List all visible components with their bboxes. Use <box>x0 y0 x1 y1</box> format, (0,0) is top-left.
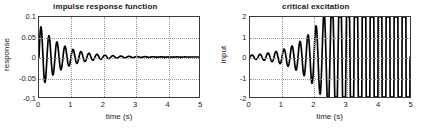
x-axis-tick-label: 1 <box>68 100 72 109</box>
chart-title-impulse-response: impulse response function <box>0 2 211 11</box>
x-axis-tick-label: 2 <box>101 100 105 109</box>
x-axis-tick-label: 5 <box>408 100 412 109</box>
x-axis-tick-label: 4 <box>166 100 170 109</box>
x-axis-tick-label: 1 <box>279 100 283 109</box>
x-axis-label-time-right: time (s) <box>249 112 411 121</box>
y-axis-tick-label: -0.05 <box>2 73 36 82</box>
x-axis-label-time-left: time (s) <box>38 112 200 121</box>
x-axis-tick-label: 0 <box>36 100 40 109</box>
y-axis-tick-label: -2 <box>213 94 247 103</box>
x-axis-tick-label: 3 <box>344 100 348 109</box>
x-axis-tick-label: 5 <box>198 100 202 109</box>
critical-excitation-trace <box>250 17 410 97</box>
y-axis-tick-label: -0.1 <box>2 94 36 103</box>
x-axis-tick-label: 2 <box>311 100 315 109</box>
x-axis-tick-label: 4 <box>376 100 380 109</box>
y-axis-tick-label: 0 <box>2 53 36 62</box>
y-axis-tick-label: 0 <box>213 53 247 62</box>
y-axis-tick-label: 0.05 <box>2 32 36 41</box>
impulse-response-trace <box>39 17 199 97</box>
x-axis-ticks-left: 012345 <box>38 100 200 112</box>
figure-container: impulse response function response 0.10.… <box>0 0 421 133</box>
x-axis-tick-label: 3 <box>133 100 137 109</box>
chart-panel-critical-excitation: critical excitation input 210-1-2 012345… <box>211 0 421 133</box>
y-axis-tick-label: 0.1 <box>2 12 36 21</box>
plot-area-critical-excitation <box>249 16 411 98</box>
y-axis-tick-label: 1 <box>213 32 247 41</box>
plot-area-impulse-response <box>38 16 200 98</box>
chart-title-critical-excitation: critical excitation <box>211 2 421 11</box>
y-axis-tick-label: 2 <box>213 12 247 21</box>
y-axis-tick-label: -1 <box>213 73 247 82</box>
y-axis-ticks-left: 0.10.050-0.05-0.1 <box>0 16 36 98</box>
x-axis-tick-label: 0 <box>246 100 250 109</box>
x-axis-ticks-right: 012345 <box>249 100 411 112</box>
chart-panel-impulse-response: impulse response function response 0.10.… <box>0 0 211 133</box>
y-axis-ticks-right: 210-1-2 <box>211 16 247 98</box>
